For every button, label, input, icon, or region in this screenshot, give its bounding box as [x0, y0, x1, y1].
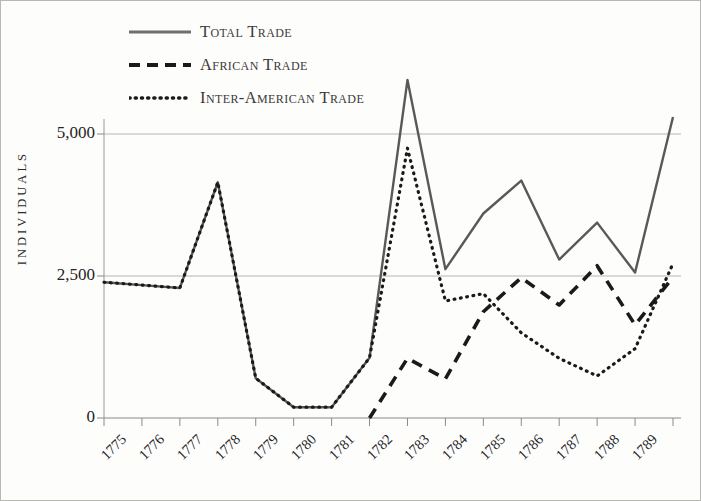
- chart-figure: INDIVIDUALS 02,5005,000 1775177617771778…: [0, 0, 701, 501]
- legend-item-african-trade: African Trade: [129, 48, 364, 81]
- legend-label-total-trade: Total Trade: [200, 22, 292, 42]
- chart-legend: Total Trade African Trade Inter-American…: [129, 15, 364, 114]
- series-line-total-trade: [104, 80, 673, 407]
- legend-swatch-solid-icon: [129, 26, 191, 38]
- legend-label-african-trade: African Trade: [200, 55, 308, 75]
- chart-plot-area: INDIVIDUALS 02,5005,000 1775177617771778…: [1, 1, 701, 501]
- series-line-african-trade: [370, 266, 673, 418]
- legend-swatch-dotted-icon: [129, 92, 191, 104]
- legend-item-inter-american-trade: Inter-American Trade: [129, 81, 364, 114]
- legend-item-total-trade: Total Trade: [129, 15, 364, 48]
- legend-swatch-dashed-icon: [129, 59, 191, 71]
- legend-label-inter-american-trade: Inter-American Trade: [200, 88, 364, 108]
